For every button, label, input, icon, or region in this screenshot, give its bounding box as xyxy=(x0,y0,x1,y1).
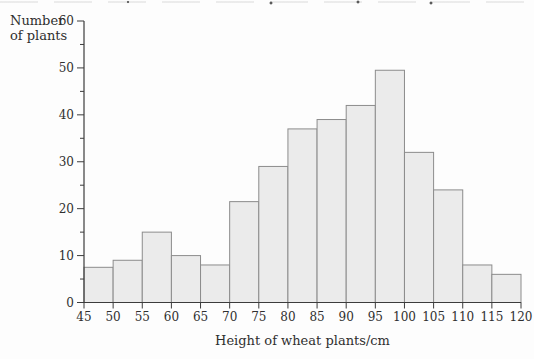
y-tick-label-50: 50 xyxy=(59,61,74,75)
x-tick-label-100: 100 xyxy=(393,310,416,324)
histogram-bar-105-110 xyxy=(434,190,463,303)
histogram-bar-95-100 xyxy=(375,70,404,302)
x-tick-label-90: 90 xyxy=(339,310,354,324)
y-tick-label-20: 20 xyxy=(59,202,74,216)
x-tick-label-105: 105 xyxy=(422,310,445,324)
x-tick-label-95: 95 xyxy=(368,310,383,324)
x-tick-label-115: 115 xyxy=(480,310,503,324)
histogram-bar-60-65 xyxy=(171,256,200,303)
x-tick-label-75: 75 xyxy=(251,310,266,324)
histogram-bar-45-50 xyxy=(84,267,113,302)
histogram-bar-50-55 xyxy=(113,260,142,302)
histogram-bar-80-85 xyxy=(288,129,317,303)
histogram-bar-65-70 xyxy=(201,265,230,303)
x-tick-label-65: 65 xyxy=(193,310,208,324)
x-tick-label-60: 60 xyxy=(164,310,179,324)
histogram-bar-90-95 xyxy=(346,105,375,302)
x-tick-label-80: 80 xyxy=(280,310,295,324)
y-tick-label-0: 0 xyxy=(66,296,74,310)
histogram-bar-70-75 xyxy=(230,202,259,303)
plot-bars xyxy=(84,70,521,302)
histogram-bar-110-115 xyxy=(463,265,492,303)
x-tick-label-45: 45 xyxy=(76,310,91,324)
x-tick-label-110: 110 xyxy=(451,310,474,324)
histogram-bar-85-90 xyxy=(317,120,346,303)
y-tick-label-10: 10 xyxy=(59,249,74,263)
y-tick-label-60: 60 xyxy=(59,14,74,28)
x-tick-label-120: 120 xyxy=(510,310,533,324)
histogram-bar-115-120 xyxy=(492,274,521,302)
x-axis-title: Height of wheat plants/cm xyxy=(84,333,521,348)
histogram-bar-75-80 xyxy=(259,166,288,302)
x-tick-label-50: 50 xyxy=(105,310,120,324)
y-tick-label-40: 40 xyxy=(59,108,74,122)
x-tick-label-70: 70 xyxy=(222,310,237,324)
histogram-svg: 0102030405060455055606570758085909510010… xyxy=(0,0,534,359)
histogram-bar-100-105 xyxy=(404,152,433,302)
x-tick-label-55: 55 xyxy=(135,310,150,324)
y-tick-label-30: 30 xyxy=(59,155,74,169)
x-tick-label-85: 85 xyxy=(309,310,324,324)
figure: Number of plants 01020304050604550556065… xyxy=(0,0,534,359)
histogram-bar-55-60 xyxy=(142,232,171,302)
